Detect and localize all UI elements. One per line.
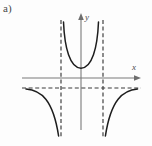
figure-container: a) x y <box>0 0 152 146</box>
x-axis-label: x <box>131 62 136 72</box>
x-axis-arrowhead <box>134 75 141 81</box>
curve-left-branch <box>26 89 59 136</box>
curve-right-branch <box>105 89 137 136</box>
y-axis-label: y <box>84 12 89 22</box>
y-axis-arrowhead <box>78 13 84 20</box>
function-graph-plot: x y <box>0 0 152 146</box>
